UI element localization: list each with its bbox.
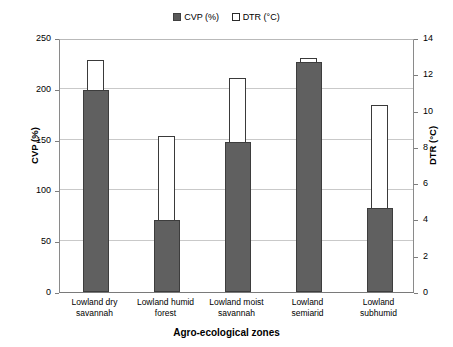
x-tick-label-line: savannah xyxy=(201,308,272,319)
x-tick-label: Lowland drysavannah xyxy=(59,297,130,319)
y-tick-mark-right xyxy=(414,184,418,185)
bar-group xyxy=(344,40,415,292)
bar-group xyxy=(202,40,273,292)
chart-container: CVP (%) DTR (°C) CVP (%) DTR (°C) 050100… xyxy=(0,0,453,347)
chart-legend: CVP (%) DTR (°C) xyxy=(0,12,453,23)
y-tick-label-right: 4 xyxy=(423,215,453,224)
x-axis-tick-labels: Lowland drysavannahLowland humidforestLo… xyxy=(59,297,414,327)
legend-label-cvp: CVP (%) xyxy=(184,12,219,22)
x-tick-label-line: Lowland moist xyxy=(201,297,272,308)
bar-cvp xyxy=(367,208,393,292)
y-tick-mark-right xyxy=(414,112,418,113)
x-tick-label: Lowlandsubhumid xyxy=(343,297,414,319)
legend-entry-cvp: CVP (%) xyxy=(173,12,219,23)
y-tick-mark-left xyxy=(55,242,59,243)
y-tick-mark-right xyxy=(414,220,418,221)
y-tick-mark-right xyxy=(414,39,418,40)
y-tick-label-right: 14 xyxy=(423,34,453,43)
x-tick-label-line: savannah xyxy=(59,308,130,319)
legend-entry-dtr: DTR (°C) xyxy=(232,12,280,23)
y-tick-mark-left xyxy=(55,141,59,142)
y-tick-mark-right xyxy=(414,148,418,149)
x-tick-label: Lowland humidforest xyxy=(130,297,201,319)
y-tick-label-right: 12 xyxy=(423,70,453,79)
y-tick-label-right: 0 xyxy=(423,288,453,297)
bar-group xyxy=(131,40,202,292)
y-tick-label-right: 6 xyxy=(423,179,453,188)
bar-group xyxy=(60,40,131,292)
y-tick-label-left: 200 xyxy=(17,85,51,94)
x-tick-label: Lowlandsemiarid xyxy=(272,297,343,319)
y-tick-label-right: 10 xyxy=(423,107,453,116)
y-tick-mark-right xyxy=(414,75,418,76)
y-tick-label-left: 50 xyxy=(17,237,51,246)
bar-cvp xyxy=(154,220,180,292)
x-axis-label: Agro-ecological zones xyxy=(0,327,453,338)
y-axis-label-left: CVP (%) xyxy=(29,106,40,186)
y-tick-mark-left xyxy=(55,90,59,91)
plot-area xyxy=(59,39,414,293)
x-tick-label: Lowland moistsavannah xyxy=(201,297,272,319)
legend-swatch-filled-square-icon xyxy=(173,13,181,21)
y-tick-mark-right xyxy=(414,293,418,294)
x-tick-label-line: Lowland xyxy=(343,297,414,308)
y-tick-label-right: 8 xyxy=(423,143,453,152)
y-tick-mark-left xyxy=(55,39,59,40)
legend-label-dtr: DTR (°C) xyxy=(243,12,280,22)
x-tick-label-line: Lowland humid xyxy=(130,297,201,308)
bar-cvp xyxy=(83,90,109,292)
x-tick-label-line: forest xyxy=(130,308,201,319)
y-tick-mark-right xyxy=(414,257,418,258)
x-tick-label-line: Lowland xyxy=(272,297,343,308)
y-tick-label-right: 2 xyxy=(423,252,453,261)
y-tick-label-left: 150 xyxy=(17,136,51,145)
y-tick-mark-left xyxy=(55,191,59,192)
x-tick-label-line: Lowland dry xyxy=(59,297,130,308)
bar-cvp xyxy=(296,62,322,292)
legend-swatch-open-square-icon xyxy=(232,13,240,21)
bar-group xyxy=(273,40,344,292)
bar-cvp xyxy=(225,142,251,292)
y-tick-label-left: 250 xyxy=(17,34,51,43)
y-tick-mark-left xyxy=(55,293,59,294)
x-tick-label-line: subhumid xyxy=(343,308,414,319)
x-tick-label-line: semiarid xyxy=(272,308,343,319)
y-tick-label-left: 0 xyxy=(17,288,51,297)
y-tick-label-left: 100 xyxy=(17,186,51,195)
